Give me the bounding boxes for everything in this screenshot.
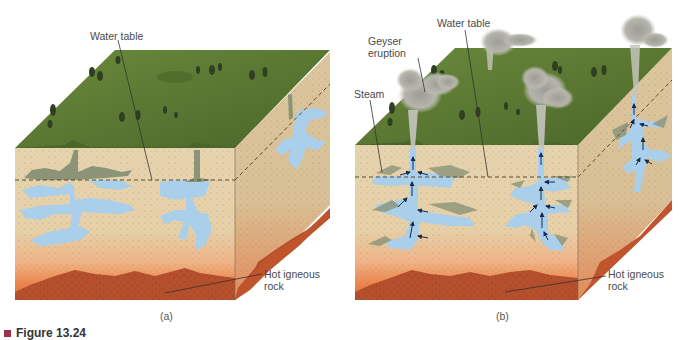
figure-marker-icon [4,330,11,337]
label-water-table-b: Water table [437,17,490,29]
caption-panel-b: (b) [496,310,509,322]
caption-panel-a: (a) [160,310,173,322]
label-steam-b: Steam [354,88,384,100]
figure-title: Figure 13.24 [4,326,86,340]
label-hot-rock-a: Hot igneous rock [264,268,320,292]
label-hot-rock-b: Hot igneous rock [608,268,664,292]
panel-a-block [15,50,330,300]
figure-title-text: Figure 13.24 [16,326,86,340]
label-geyser-eruption-b: Geyser eruption [368,35,406,59]
label-water-table-a: Water table [90,30,143,42]
